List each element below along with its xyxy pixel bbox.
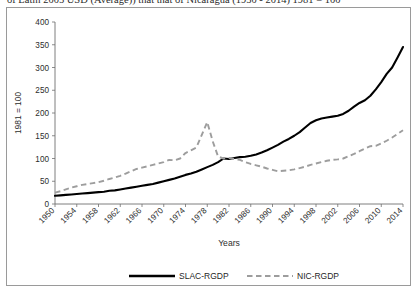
line-chart: 050100150200250300350400 195019541958196… [7, 8, 410, 285]
legend-group: SLAC-RGDPNIC-RGDP [129, 271, 339, 281]
x-tick-label: 2014 [385, 206, 405, 226]
axis-lines [55, 22, 403, 204]
x-tick-labels-group: 1950195419581962196619701974197819821986… [37, 204, 405, 225]
plot-area: 050100150200250300350400 195019541958196… [7, 8, 410, 285]
x-tick-label: 2010 [363, 206, 383, 226]
y-tick-label: 300 [35, 64, 49, 73]
x-tick-label: 1954 [59, 206, 79, 226]
figure-caption-text: of Latin 2005 USD (Average)) that that o… [7, 0, 340, 5]
figure-frame: 050100150200250300350400 195019541958196… [6, 7, 411, 286]
x-tick-label: 1994 [276, 206, 296, 226]
series-line-nic-rgdp [55, 122, 403, 193]
y-tick-label: 350 [35, 41, 49, 50]
y-tick-label: 100 [35, 155, 49, 164]
x-tick-label: 1986 [233, 206, 253, 226]
y-axis-title: 1981 = 100 [13, 92, 23, 134]
y-tick-labels-group: 050100150200250300350400 [35, 18, 55, 209]
x-tick-label: 1966 [124, 206, 144, 226]
y-tick-label: 400 [35, 18, 49, 27]
x-axis-title: Years [218, 238, 240, 248]
x-axis-title-group: Years [218, 238, 240, 248]
x-tick-label: 1982 [211, 206, 231, 226]
x-tick-label: 1990 [255, 206, 275, 226]
x-tick-label: 2002 [320, 206, 340, 226]
y-tick-label: 150 [35, 132, 49, 141]
x-tick-label: 1978 [189, 206, 209, 226]
y-tick-label: 200 [35, 109, 49, 118]
x-tick-label: 1970 [146, 206, 166, 226]
axes-group [55, 22, 403, 204]
x-tick-label: 1958 [81, 206, 101, 226]
series-group [55, 47, 403, 196]
y-tick-label: 50 [40, 177, 50, 186]
y-axis-title-group: 1981 = 100 [13, 92, 23, 134]
x-tick-label: 1950 [37, 206, 57, 226]
x-tick-label: 1974 [168, 206, 188, 226]
x-tick-label: 2006 [342, 206, 362, 226]
x-tick-label: 1962 [102, 206, 122, 226]
legend-label-nic-rgdp: NIC-RGDP [297, 271, 339, 281]
legend-label-slac-rgdp: SLAC-RGDP [179, 271, 229, 281]
x-tick-label: 1998 [298, 206, 318, 226]
series-line-slac-rgdp [55, 47, 403, 196]
y-tick-label: 250 [35, 86, 49, 95]
